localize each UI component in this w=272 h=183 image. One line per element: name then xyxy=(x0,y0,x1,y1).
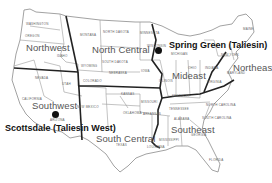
site-label-spring-green: Spring Green (Taliesin) xyxy=(169,40,267,50)
state-label-indiana: INDIANA xyxy=(205,66,219,70)
state-label-maine: MAINE xyxy=(243,27,254,31)
state-label-new-york: NEW YORK xyxy=(221,53,239,57)
state-label-minnesota: MINNESOTA xyxy=(140,31,159,35)
state-label-louisiana: LOUISIANA xyxy=(147,145,165,149)
state-label-new-mexico: NEW MEXICO xyxy=(77,105,99,109)
state-label-arizona: ARIZONA xyxy=(50,118,65,122)
state-label-michigan: MICHIGAN xyxy=(171,52,188,56)
region-label-south-central: South Central xyxy=(96,133,155,144)
state-label-south-carolina: SOUTH CAROLINA xyxy=(202,116,231,120)
region-label-mideast: Mideast xyxy=(172,70,206,81)
state-label-tennessee: TENNESSEE xyxy=(169,107,189,111)
region-label-northeast: Northeast xyxy=(233,62,272,73)
site-label-scottsdale: Scottsdale (Taliesin West) xyxy=(5,123,116,133)
state-label-utah: UTAH xyxy=(62,82,71,86)
state-label-iowa: IOWA xyxy=(141,69,150,73)
state-label-virginia: VIRGINIA xyxy=(207,80,222,84)
state-label-kentucky: KENTUCKY xyxy=(172,94,190,98)
state-label-wyoming: WYOMING xyxy=(81,64,97,68)
state-label-illinois: ILLINOIS xyxy=(159,79,173,83)
region-label-northwest: Northwest xyxy=(26,42,70,53)
state-label-washington: WASHINGTON xyxy=(26,22,49,26)
state-label-kansas: KANSAS xyxy=(121,92,134,96)
region-boundary-west-horizontal xyxy=(14,68,78,72)
state-label-north-carolina: NORTH CAROLINA xyxy=(206,103,236,107)
region-label-southeast: Southeast xyxy=(171,124,215,135)
site-marker-spring-green xyxy=(155,47,162,54)
state-label-arkansas: ARKANSAS xyxy=(143,112,161,116)
us-outline xyxy=(12,9,254,172)
state-label-north-dakota: NORTH DAKOTA xyxy=(103,30,129,34)
state-label-oregon: OREGON xyxy=(25,34,40,38)
state-label-oklahoma: OKLAHOMA xyxy=(123,111,142,115)
state-label-florida: FLORIDA xyxy=(209,158,223,162)
state-label-nevada: NEVADA xyxy=(35,76,48,80)
state-label-mississippi: MISSISSIPPI xyxy=(159,138,179,142)
us-regions-map xyxy=(0,0,272,183)
site-marker-scottsdale xyxy=(52,111,59,118)
state-label-alabama: ALABAMA xyxy=(174,117,190,121)
state-label-missouri: MISSOURI xyxy=(141,100,157,104)
state-label-nebraska: NEBRASKA xyxy=(109,71,127,75)
region-label-north-central: North Central xyxy=(92,44,150,55)
state-label-colorado: COLORADO xyxy=(83,79,102,83)
region-boundary-mississippi xyxy=(152,24,162,148)
state-label-idaho: IDAHO xyxy=(57,54,68,58)
region-label-southwest: Southwest xyxy=(32,100,77,111)
state-label-south-dakota: SOUTH DAKOTA xyxy=(102,60,128,64)
state-label-montana: MONTANA xyxy=(80,33,96,37)
